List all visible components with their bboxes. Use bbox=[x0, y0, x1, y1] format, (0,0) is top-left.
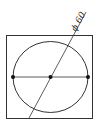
diagram-svg: ϕ 60 bbox=[0, 0, 105, 125]
diagram-canvas: ϕ 60 bbox=[0, 0, 105, 125]
right-point bbox=[86, 75, 90, 79]
left-point bbox=[11, 75, 15, 79]
center-point bbox=[49, 75, 53, 79]
